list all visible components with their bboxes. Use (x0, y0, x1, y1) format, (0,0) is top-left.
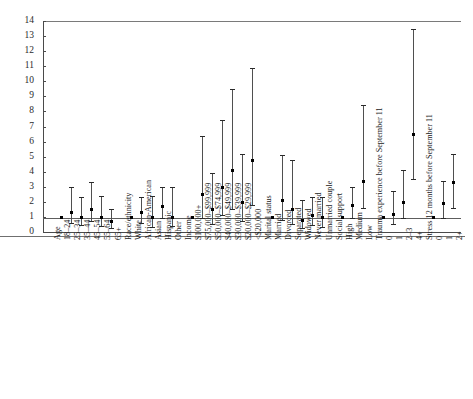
y-tick-label: 2 (8, 197, 34, 207)
category-label: 35–44 (84, 220, 92, 240)
category-label: White (135, 220, 143, 240)
y-tick-label: 5 (8, 152, 34, 162)
confidence-interval-cap (300, 200, 305, 201)
y-tick-label: 3 (8, 182, 34, 192)
group-header-label: Race/ethnicity (125, 193, 133, 240)
estimate-point (362, 180, 365, 183)
confidence-interval-cap (220, 120, 225, 121)
x-axis-category-labels: Age18–2425–3435–4445–5455–6465+Race/ethn… (0, 238, 473, 399)
group-header-label: Trauma experience before September 11 (376, 107, 384, 240)
category-label: 2–3 (406, 228, 414, 240)
estimate-point (281, 199, 284, 202)
category-label: Married (275, 214, 283, 240)
y-tick-label: 0 (8, 227, 34, 237)
confidence-interval-bar (363, 105, 364, 207)
category-label: $30,000–$39,999 (235, 183, 243, 240)
category-label: Widowed (305, 208, 313, 240)
confidence-interval-cap (69, 187, 74, 188)
estimate-point (452, 181, 455, 184)
confidence-interval-bar (352, 187, 353, 219)
category-label: Medium (356, 212, 364, 240)
category-label: 4+ (416, 231, 424, 240)
category-label: 25–34 (74, 220, 82, 240)
confidence-interval-bar (413, 29, 414, 180)
y-tick-label: 11 (8, 61, 34, 71)
confidence-interval-cap (230, 89, 235, 90)
confidence-interval-cap (250, 68, 255, 69)
group-header-label: Income (185, 215, 193, 240)
confidence-interval-cap (79, 197, 84, 198)
group-header-label: Age (54, 226, 62, 240)
confidence-interval-cap (170, 187, 175, 188)
y-tick-label: 6 (8, 137, 34, 147)
category-label: Never married (315, 192, 323, 240)
forest-plot-figure: 01234567891011121314 Age18–2425–3435–444… (0, 0, 473, 399)
y-tick-label: 10 (8, 76, 34, 86)
confidence-interval-bar (403, 170, 404, 218)
category-label: Hispanic (165, 211, 173, 240)
category-label: African-American (145, 180, 153, 240)
confidence-interval-cap (361, 208, 366, 209)
category-label: 45–54 (94, 220, 102, 240)
confidence-interval-bar (91, 182, 92, 220)
category-label: $50,000–$74,999 (215, 183, 223, 240)
category-label: $40,000–$49,999 (225, 183, 233, 240)
confidence-interval-cap (99, 196, 104, 197)
y-tick-label: 7 (8, 122, 34, 132)
category-label: 1 (396, 236, 404, 240)
category-label: $75,000–$99,999 (205, 183, 213, 240)
category-label: 55–64 (104, 220, 112, 240)
category-label: Separated (295, 208, 303, 240)
category-label: 18–24 (64, 220, 72, 240)
estimate-point (442, 202, 445, 205)
confidence-interval-cap (200, 136, 205, 137)
confidence-interval-cap (451, 208, 456, 209)
confidence-interval-cap (451, 154, 456, 155)
estimate-point (70, 211, 73, 214)
confidence-interval-bar (443, 181, 444, 219)
confidence-interval-cap (441, 218, 446, 219)
confidence-interval-cap (290, 160, 295, 161)
confidence-interval-cap (411, 179, 416, 180)
confidence-interval-cap (391, 224, 396, 225)
category-label: $100,000+ (195, 205, 203, 240)
category-label: 65+ (115, 227, 123, 240)
confidence-interval-bar (71, 187, 72, 223)
confidence-interval-cap (391, 191, 396, 192)
confidence-interval-bar (393, 191, 394, 223)
y-tick-mark (43, 232, 46, 233)
category-label: High (346, 224, 354, 240)
estimate-point (161, 205, 164, 208)
category-label: Divorced (285, 210, 293, 240)
estimate-point (60, 216, 63, 219)
category-label: 1 (446, 236, 454, 240)
confidence-interval-cap (210, 173, 215, 174)
confidence-interval-cap (411, 29, 416, 30)
category-label: $20,000–$29,999 (245, 183, 253, 240)
estimate-point (392, 213, 395, 216)
estimate-point (251, 159, 254, 162)
category-label: Unmarried couple (326, 181, 334, 240)
estimate-point (80, 216, 83, 219)
estimate-point (100, 216, 103, 219)
confidence-interval-cap (240, 154, 245, 155)
y-tick-label: 14 (8, 16, 34, 26)
y-tick-label: 1 (8, 212, 34, 222)
estimate-point (351, 204, 354, 207)
confidence-interval-cap (280, 155, 285, 156)
estimate-point (412, 133, 415, 136)
category-label: 2+ (456, 231, 464, 240)
group-header-label: Stress 12 months before September 11 (426, 114, 434, 240)
confidence-interval-bar (162, 187, 163, 219)
y-tick-label: 8 (8, 106, 34, 116)
estimate-point (90, 208, 93, 211)
confidence-interval-cap (361, 105, 366, 106)
y-tick-label: 12 (8, 46, 34, 56)
category-label: Asian (155, 221, 163, 240)
category-label: Low (366, 225, 374, 240)
confidence-interval-cap (350, 187, 355, 188)
confidence-interval-cap (89, 182, 94, 183)
confidence-interval-cap (160, 187, 165, 188)
confidence-interval-cap (441, 181, 446, 182)
confidence-interval-cap (109, 209, 114, 210)
